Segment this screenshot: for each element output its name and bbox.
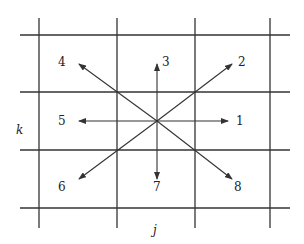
lattice-diagram: 12345678 j k <box>0 0 304 244</box>
direction-label-8: 8 <box>234 180 242 194</box>
axis-label-k: k <box>16 123 23 137</box>
direction-arrows <box>79 64 232 179</box>
direction-label-7: 7 <box>153 180 161 194</box>
direction-label-4: 4 <box>58 55 66 69</box>
direction-label-2: 2 <box>238 55 246 69</box>
axis-label-j: j <box>150 223 157 237</box>
direction-label-3: 3 <box>162 55 170 69</box>
direction-label-6: 6 <box>58 180 66 194</box>
direction-label-1: 1 <box>236 114 244 128</box>
direction-label-5: 5 <box>58 114 66 128</box>
